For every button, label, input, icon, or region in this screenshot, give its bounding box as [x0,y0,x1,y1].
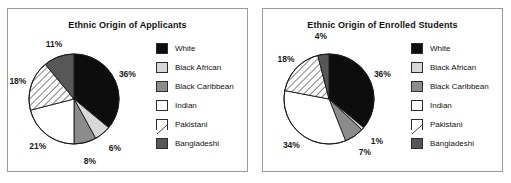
legend-label-bangladeshi: Bangladeshi [430,139,474,148]
medium-gray-swatch [411,81,423,92]
chart-title-enrolled-students: Ethnic Origin of Enrolled Students [263,20,502,30]
pie-applicants: 36%6%8%21%18%11% [12,31,154,169]
legend-label-black-caribbean: Black Caribbean [175,82,234,91]
legend-label-pakistani: Pakistani [175,120,207,129]
legend-applicants: White Black African Black Caribbean Indi… [156,39,246,153]
pie-slice-percentage-label: 18% [9,76,26,86]
pie-slice-percentage-label: 8% [84,156,96,166]
legend-label-black-african: Black African [430,63,476,72]
white-swatch [156,100,168,111]
legend-item-black-african: Black African [156,58,246,76]
pie-slice-percentage-label: 7% [359,147,371,157]
pie-slice-percentage-label: 11% [46,39,63,49]
legend-label-black-caribbean: Black Caribbean [430,82,489,91]
pie-slice-percentage-label: 4% [315,31,327,41]
pie-slice-percentage-label: 34% [283,140,300,150]
legend-label-bangladeshi: Bangladeshi [175,139,219,148]
pie-chart-pair-figure: Ethnic Origin of Applicants 36%6%8%21%18… [0,0,511,183]
pie-slice-percentage-label: 1% [371,136,383,146]
pie-slice-percentage-label: 6% [109,143,121,153]
pie-enrolled-students: 36%1%7%34%18%4% [267,31,409,169]
legend-item-black-african: Black African [411,58,501,76]
pie-slice-percentage-label: 36% [374,69,391,79]
pie-slice-percentage-label: 18% [277,54,294,64]
legend-item-white: White [411,39,501,57]
legend-label-white: White [430,44,450,53]
legend-item-black-caribbean: Black Caribbean [156,77,246,95]
legend-label-white: White [175,44,195,53]
light-gray-swatch [411,62,423,73]
black-swatch [156,43,168,54]
light-gray-swatch [156,62,168,73]
chart-panel-applicants: Ethnic Origin of Applicants 36%6%8%21%18… [7,8,248,172]
legend-item-black-caribbean: Black Caribbean [411,77,501,95]
legend-label-indian: Indian [175,101,197,110]
legend-label-black-african: Black African [175,63,221,72]
chart-title-applicants: Ethnic Origin of Applicants [8,20,247,30]
dark-gray-swatch [411,138,423,149]
legend-label-pakistani: Pakistani [430,120,462,129]
pie-slice-percentage-label: 21% [29,141,46,151]
pie-slice-percentage-label: 36% [119,69,136,79]
black-swatch [411,43,423,54]
legend-item-indian: Indian [156,96,246,114]
diagonal-hatch-swatch [411,119,423,130]
legend-item-indian: Indian [411,96,501,114]
legend-item-pakistani: Pakistani [156,115,246,133]
medium-gray-swatch [156,81,168,92]
legend-label-indian: Indian [430,101,452,110]
diagonal-hatch-swatch [156,119,168,130]
legend-item-bangladeshi: Bangladeshi [411,134,501,152]
legend-item-bangladeshi: Bangladeshi [156,134,246,152]
legend-item-white: White [156,39,246,57]
white-swatch [411,100,423,111]
legend-enrolled-students: White Black African Black Caribbean Indi… [411,39,501,153]
legend-item-pakistani: Pakistani [411,115,501,133]
dark-gray-swatch [156,138,168,149]
chart-panel-enrolled-students: Ethnic Origin of Enrolled Students 36%1%… [262,8,503,172]
